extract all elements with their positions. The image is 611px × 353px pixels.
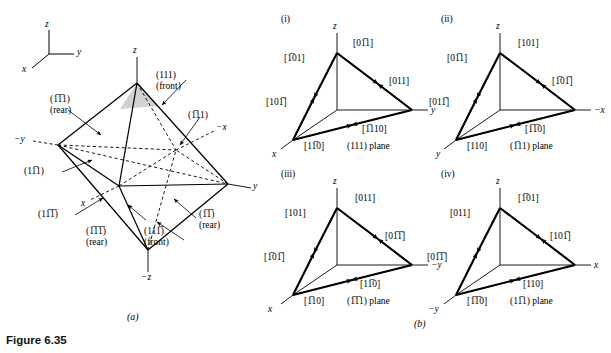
axis-key-label-z: z [45, 19, 49, 30]
tetra-ii-axis-right: −x [594, 105, 605, 116]
part-b-label: (b) [414, 318, 426, 329]
tetra-iv-axis-vertical: z [496, 176, 500, 187]
tetra-ii-dir-bottom-right: [1̅1̅0] [525, 124, 545, 135]
tetra-iv [444, 188, 591, 304]
octahedron-axis-y: y [253, 181, 257, 192]
tetra-iv-dir-upper-left: [011] [450, 208, 470, 219]
tetra-iv-dir-left: [01̅1̅] [427, 252, 447, 263]
tetra-iv-axis-right: x [594, 260, 598, 271]
axis-key-triad [32, 30, 74, 68]
octahedron-plane-n111-indices: (1̅11) [188, 110, 208, 121]
figure-caption: Figure 6.35 [6, 334, 67, 346]
octahedron-plane-1n1n1-indices: (11̅1̅) [38, 209, 58, 220]
tetra-iii-id: (iii) [281, 169, 295, 179]
axis-key-label-x: x [22, 64, 26, 75]
tetra-i-dir-upper-left: [1̅01] [284, 53, 305, 64]
tetra-iv-dir-bottom-right: [110] [523, 279, 543, 290]
tetra-iii-dir-right: [01̅1̅] [385, 231, 405, 242]
tetra-i [281, 33, 428, 149]
tetra-iv-dir-right: [101̅] [550, 231, 571, 242]
tetra-iii-axis-lower-left: x [268, 304, 272, 315]
tetra-iv-dir-upper-right: [1̅01] [518, 193, 539, 204]
axis-key-label-y: y [77, 47, 81, 58]
tetra-ii-dir-left: [011̅] [429, 97, 449, 108]
octahedron-plane-n1n11-rear-note: (rear) [50, 105, 71, 116]
tetra-iii-dir-left: [1̅01̅] [264, 252, 285, 263]
tetra-i-dir-upper-right: [01̅1] [353, 38, 373, 49]
tetra-ii-dir-right: [1̅01̅] [552, 76, 573, 87]
octahedron-axis-neg-x: −x [216, 122, 227, 133]
tetra-ii-axis-lower-left: y [436, 149, 440, 160]
figure-6-35: z y x z −z y −y x −x (111) (front) (1̅1̅… [0, 0, 611, 353]
octahedron-axis-z: z [133, 45, 137, 56]
tetra-iv-axis-lower-left: −y [428, 304, 439, 315]
tetra-i-axis-lower-left: x [272, 149, 276, 160]
tetra-ii-id: (ii) [441, 14, 453, 24]
part-a-label: (a) [127, 311, 139, 322]
octahedron-plane-111-front-note: (front) [156, 81, 181, 92]
tetra-iii-axis-vertical: z [333, 176, 337, 187]
octahedron-plane-1n11-indices: (11̅1) [24, 166, 44, 177]
tetra-i-dir-right: [011] [389, 76, 409, 87]
octahedron-plane-n1n1n1-rear-indices: (1̅1̅1̅) [86, 226, 106, 237]
tetra-ii-plane-label: (1̅11) plane [510, 141, 553, 152]
tetra-iv-plane-label: (11̅1) plane [510, 296, 553, 307]
octahedron-axis-neg-y: −y [14, 134, 25, 145]
tetra-i-id: (i) [281, 14, 290, 24]
tetra-iii-dir-bottom-left: [1̅10] [304, 296, 324, 307]
tetra-iii-dir-upper-left: [101] [285, 208, 306, 219]
tetra-ii-axis-vertical: z [496, 21, 500, 32]
tetra-iii [281, 188, 428, 304]
tetra-iv-id: (iv) [441, 169, 455, 179]
tetra-iii-plane-label: (1̅1̅1) plane [347, 296, 390, 307]
tetra-iii-dir-upper-right: [011] [355, 193, 375, 204]
tetra-i-plane-label: (111) plane [347, 141, 390, 152]
tetra-ii-dir-upper-right: [101] [518, 38, 539, 49]
tetra-ii-dir-upper-left: [01̅1] [447, 53, 467, 64]
octahedron-plane-n1n11-rear-indices: (1̅1̅1) [50, 94, 70, 105]
octahedron-shaded-facet [120, 83, 158, 109]
tetra-ii [444, 33, 591, 149]
tetra-ii-dir-bottom-left: [110] [467, 141, 487, 152]
tetra-i-dir-bottom-right: [1̅110] [362, 124, 387, 135]
tetra-iv-dir-bottom-left: [1̅1̅0] [467, 296, 487, 307]
octahedron-plane-11n1-front-note: (front) [144, 237, 169, 248]
octahedron-plane-111-front-indices: (111) [156, 70, 176, 81]
octahedron-plane-n11n1-rear-note: (rear) [199, 220, 220, 231]
tetra-i-axis-vertical: z [333, 21, 337, 32]
octahedron-axis-neg-z: −z [141, 272, 151, 283]
octahedron-plane-11n1-front-indices: (111̅) [144, 226, 164, 237]
octahedron-plane-n11n1-rear-indices: (1̅1̅) [199, 209, 214, 220]
tetra-i-dir-left: [101̅] [266, 97, 287, 108]
tetra-i-dir-bottom-left: [11̅0] [304, 141, 324, 152]
tetra-iii-dir-bottom-right: [11̅0] [360, 279, 380, 290]
octahedron-axis-x: x [81, 198, 85, 209]
octahedron-plane-n1n1n1-rear-note: (rear) [86, 237, 107, 248]
